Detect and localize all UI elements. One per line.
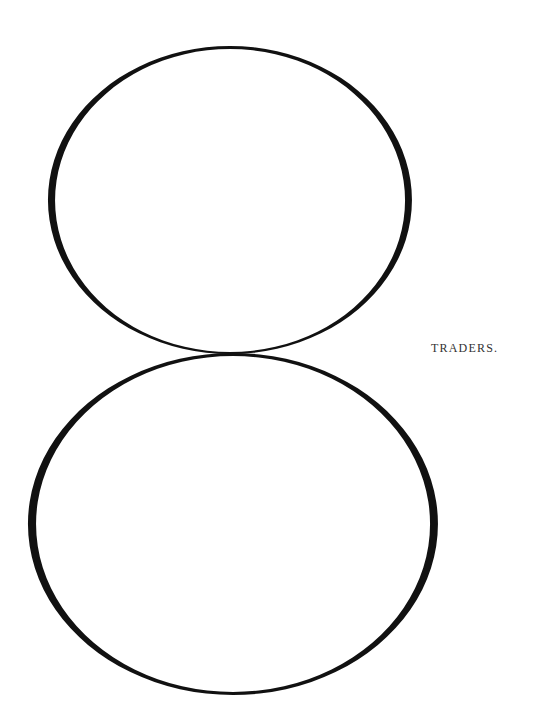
traders-caption: TRADERS.: [431, 341, 498, 356]
ovals-drawing: [0, 0, 545, 727]
figure-eight-illustration: [0, 0, 545, 727]
upper-oval-shape: [48, 46, 412, 354]
lower-oval-shape: [28, 353, 438, 695]
